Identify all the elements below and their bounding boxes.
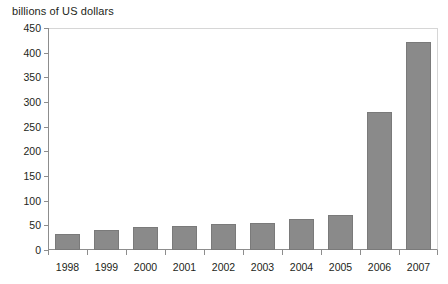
- x-axis-label: 2007: [399, 260, 438, 274]
- x-axis-label: 2005: [321, 260, 360, 274]
- bar-slot: [48, 28, 87, 250]
- x-axis-label: 1998: [48, 260, 87, 274]
- bar: [406, 42, 431, 250]
- y-tick-label: 200: [3, 144, 41, 159]
- bar-slot: [399, 28, 438, 250]
- x-tick-mark: [282, 250, 283, 255]
- x-axis: 1998199920002001200220032004200520062007: [48, 250, 438, 284]
- bar-slot: [126, 28, 165, 250]
- x-tick-mark: [437, 250, 438, 255]
- bar-slot: [204, 28, 243, 250]
- y-tick-label: 350: [3, 70, 41, 85]
- bar-slot: [321, 28, 360, 250]
- bar-slot: [87, 28, 126, 250]
- y-tick-label: 50: [3, 218, 41, 233]
- x-tick-mark: [321, 250, 322, 255]
- x-axis-label: 2002: [204, 260, 243, 274]
- bar: [367, 112, 392, 250]
- x-axis-label: 2006: [360, 260, 399, 274]
- bars-layer: [48, 28, 438, 250]
- x-tick-mark: [243, 250, 244, 255]
- bar-slot: [360, 28, 399, 250]
- x-tick-mark: [165, 250, 166, 255]
- x-tick-mark: [360, 250, 361, 255]
- bar-slot: [243, 28, 282, 250]
- bar: [133, 227, 158, 250]
- bar: [55, 234, 80, 250]
- bar-slot: [165, 28, 204, 250]
- x-axis-label: 2000: [126, 260, 165, 274]
- y-tick-label: 400: [3, 46, 41, 61]
- x-tick-mark: [126, 250, 127, 255]
- bar-slot: [282, 28, 321, 250]
- y-tick-label: 250: [3, 120, 41, 135]
- x-tick-mark: [204, 250, 205, 255]
- y-tick-label: 0: [3, 243, 41, 258]
- x-tick-mark: [87, 250, 88, 255]
- bar-chart: billions of US dollars 05010015020025030…: [0, 0, 448, 284]
- x-axis-label: 2004: [282, 260, 321, 274]
- x-tick-mark: [48, 250, 49, 255]
- x-axis-label: 1999: [87, 260, 126, 274]
- x-tick-mark: [399, 250, 400, 255]
- x-axis-label: 2001: [165, 260, 204, 274]
- bar: [94, 230, 119, 250]
- y-axis-title: billions of US dollars: [12, 5, 114, 18]
- y-tick-label: 150: [3, 169, 41, 184]
- bar: [328, 215, 353, 250]
- bar: [289, 219, 314, 250]
- y-tick-label: 300: [3, 95, 41, 110]
- x-axis-label: 2003: [243, 260, 282, 274]
- bar: [172, 226, 197, 250]
- y-tick-label: 450: [3, 21, 41, 36]
- y-tick-label: 100: [3, 194, 41, 209]
- bar: [211, 224, 236, 250]
- bar: [250, 223, 275, 250]
